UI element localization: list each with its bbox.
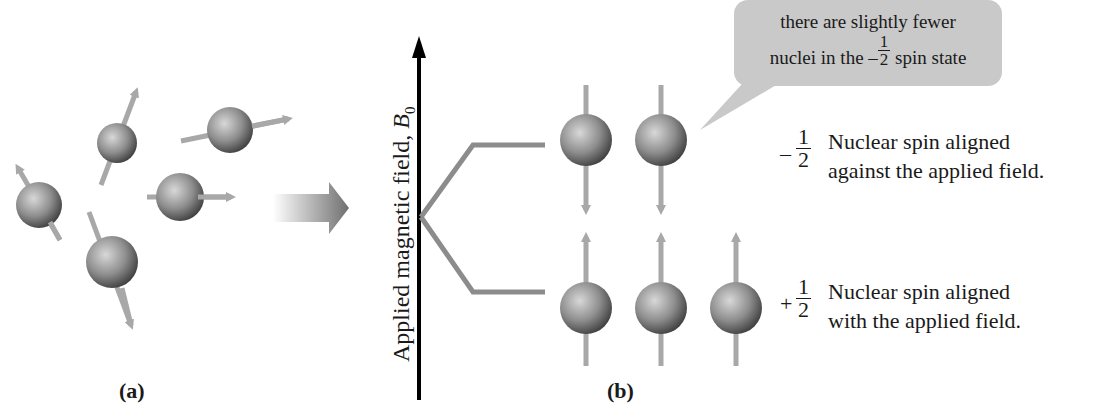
callout-suffix: spin state	[895, 47, 966, 68]
state-sign: –	[780, 140, 791, 169]
callout-fraction: 12	[878, 33, 891, 68]
callout-pointer	[700, 84, 778, 130]
nucleus	[710, 237, 762, 366]
spin-up-nuclei	[560, 237, 762, 366]
panel-b-label: (b)	[607, 378, 634, 404]
callout-line-1: there are slightly fewer	[734, 12, 1002, 31]
state-fraction: 12	[796, 126, 811, 171]
nucleus	[147, 173, 231, 221]
transition-arrow-icon	[273, 182, 349, 234]
panel-a-random-nuclei	[16, 92, 288, 325]
callout-line-2: nuclei in the –12 spin state	[734, 48, 1002, 68]
nucleus	[16, 168, 62, 240]
nucleus	[97, 92, 137, 185]
spin-down-nuclei	[560, 85, 687, 210]
nmr-spin-figure: there are slightly fewer nuclei in the –…	[0, 0, 1098, 418]
panel-a-label: (a)	[119, 378, 145, 404]
state-description: Nuclear spin aligned with the applied fi…	[828, 278, 1021, 335]
state-description: Nuclear spin aligned against the applied…	[828, 128, 1044, 185]
state-sign: +	[780, 290, 792, 319]
nucleus	[86, 212, 138, 325]
callout-prefix: nuclei in the	[770, 47, 864, 68]
callout-bubble: there are slightly fewer nuclei in the –…	[734, 0, 1002, 86]
axis-label: Applied magnetic field, B0	[388, 107, 419, 362]
nucleus	[560, 237, 612, 366]
state-fraction: 12	[796, 276, 811, 321]
energy-level-splitting	[421, 145, 545, 292]
callout-sign: –	[868, 47, 878, 68]
nucleus	[635, 85, 687, 210]
nucleus	[635, 237, 687, 366]
nucleus	[181, 107, 288, 153]
nucleus	[560, 85, 612, 210]
